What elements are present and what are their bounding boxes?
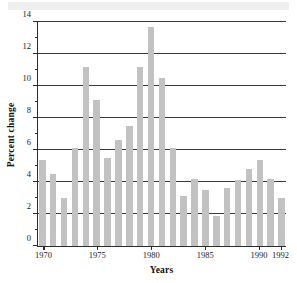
bar (202, 190, 209, 246)
bar (170, 148, 177, 246)
x-axis-tick-label: 1970 (35, 251, 52, 260)
y-axis-tick-label: 6 (27, 137, 31, 146)
bar (115, 140, 122, 246)
bar (180, 196, 187, 246)
bar-chart-figure: Percent change 02468101214 1970197519801… (0, 0, 297, 283)
bar (50, 174, 57, 246)
y-axis-tick-label: 10 (23, 73, 32, 82)
x-axis-tick-label: 1990 (251, 251, 268, 260)
x-axis-tick-label: 1975 (89, 251, 106, 260)
y-axis-tick-label: 14 (23, 9, 32, 18)
bar (267, 179, 274, 246)
bar (93, 100, 100, 246)
y-axis-tick-label: 4 (27, 169, 31, 178)
y-axis-title: Percent change (4, 22, 18, 247)
bar (278, 198, 285, 246)
x-axis-tick-label: 1985 (197, 251, 214, 260)
y-axis-tick-label: 8 (27, 105, 31, 114)
y-axis-tick-label: 12 (23, 41, 32, 50)
bar (104, 158, 111, 246)
y-axis-tick-label: 2 (27, 201, 31, 210)
bar (137, 67, 144, 246)
y-axis-tick-label: 0 (27, 233, 31, 242)
bar (235, 180, 242, 246)
bar (246, 169, 253, 246)
bar (83, 67, 90, 246)
bar (126, 126, 133, 246)
bar (191, 179, 198, 246)
bar (39, 160, 46, 246)
bar (148, 27, 155, 246)
bar (213, 216, 220, 246)
x-axis-tick-label: 1992 (272, 251, 289, 260)
bar (72, 148, 79, 246)
plot-area: 02468101214 197019751980198519901992 (37, 22, 286, 247)
bar (257, 160, 264, 246)
bar (224, 188, 231, 246)
bar (159, 78, 166, 246)
bar-series (38, 22, 286, 246)
x-axis-title: Years (37, 265, 286, 275)
header-band (8, 2, 289, 10)
y-axis-title-label: Percent change (6, 102, 16, 167)
x-axis-tick-label: 1980 (143, 251, 160, 260)
bar (61, 198, 68, 246)
